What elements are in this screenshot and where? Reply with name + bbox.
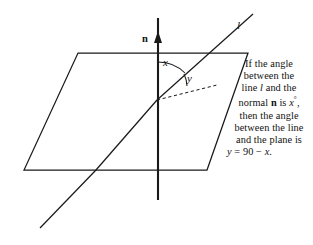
caption-line-4-f: , (297, 98, 300, 109)
plane-parallelogram (24, 53, 248, 170)
caption-line-1: If the angle (226, 58, 312, 70)
line-l-through-plane (96, 100, 157, 170)
line-l-lower-segment (40, 170, 96, 228)
caption-line-4-c: is (277, 98, 289, 109)
caption-line-2: between the (226, 70, 312, 82)
caption-line-3: line l and the (226, 82, 312, 94)
caption-line-3-c: and the (263, 82, 296, 93)
formula-period: . (269, 146, 272, 157)
caption-line-8-formula: y = 90 − x. (226, 146, 312, 158)
angle-y-label: y (186, 72, 192, 84)
caption-text-block: If the angle between the line l and the … (226, 58, 312, 158)
formula-body: = 90 − (232, 146, 265, 157)
caption-line-3-a: line (242, 82, 261, 93)
geometry-figure: n l x y If the angle between the line l … (0, 0, 313, 245)
normal-arrowhead-icon (154, 31, 162, 43)
caption-line-5: then the angle (226, 110, 312, 122)
caption-line-7: and the plane is (226, 134, 312, 146)
caption-line-4-a: normal (238, 98, 270, 109)
angle-x-label: x (162, 56, 168, 68)
normal-vector-label: n (142, 33, 148, 44)
caption-line-6: between the line (226, 122, 312, 134)
line-l-label: l (237, 19, 240, 31)
caption-line-4: normal n is x°, (226, 94, 312, 110)
